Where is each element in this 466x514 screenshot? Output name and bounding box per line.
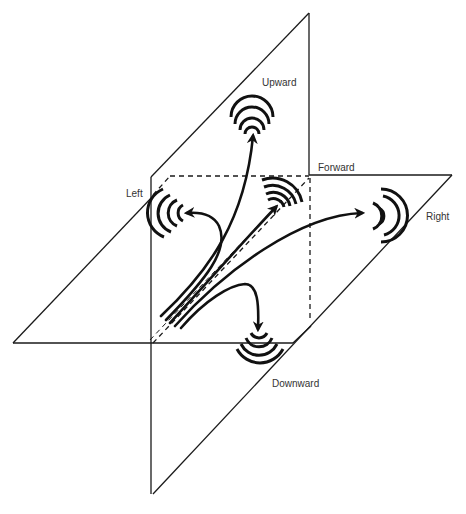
direction-diagram: Upward Forward Left Right Downward xyxy=(0,0,466,514)
label-forward: Forward xyxy=(318,162,355,173)
arrow-forward xyxy=(170,207,276,323)
horizontal-plane xyxy=(13,175,452,343)
downward-sound-wave-icon xyxy=(237,333,283,363)
label-downward: Downward xyxy=(272,378,319,389)
label-left: Left xyxy=(126,188,143,199)
right-sound-wave-icon xyxy=(373,189,408,242)
label-right: Right xyxy=(426,211,450,222)
vertical-plane xyxy=(151,13,452,494)
left-sound-wave-icon xyxy=(147,189,183,237)
label-upward: Upward xyxy=(262,77,296,88)
upward-sound-wave-icon xyxy=(231,96,273,134)
